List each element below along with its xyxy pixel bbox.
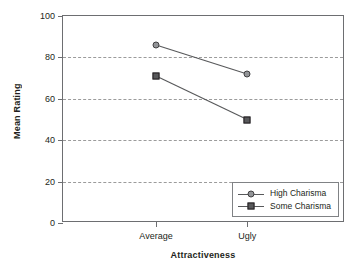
legend: High CharismaSome Charisma: [232, 182, 339, 217]
x-tick-label: Average: [139, 231, 172, 241]
y-tick-label: 20: [45, 177, 55, 187]
y-tick-label: 60: [45, 94, 55, 104]
legend-key: [238, 188, 264, 199]
data-point-square: [244, 116, 251, 123]
legend-key: [238, 200, 264, 211]
data-point-circle: [153, 41, 160, 48]
y-tick-label: 100: [40, 11, 55, 21]
line-chart-figure: Mean Rating 020406080100 AverageUgly Hig…: [0, 0, 364, 271]
data-point-circle: [244, 70, 251, 77]
legend-item-high-charisma[interactable]: High Charisma: [238, 187, 331, 199]
legend-label: Some Charisma: [270, 200, 331, 212]
legend-item-some-charisma[interactable]: Some Charisma: [238, 200, 331, 212]
y-tick-mark: [58, 223, 63, 224]
legend-marker-circle: [248, 190, 255, 197]
series-line: [156, 76, 247, 119]
y-axis-title: Mean Rating: [8, 0, 26, 222]
data-point-square: [153, 73, 160, 80]
plot-area: 020406080100 AverageUgly High CharismaSo…: [62, 15, 344, 222]
legend-label: High Charisma: [270, 187, 326, 199]
y-tick-label: 0: [50, 218, 55, 228]
x-tick-label: Ugly: [238, 231, 256, 241]
x-axis-title: Attractiveness: [62, 250, 344, 260]
series-line: [156, 45, 247, 74]
y-tick-label: 40: [45, 135, 55, 145]
legend-marker-square: [248, 202, 255, 209]
y-tick-label: 80: [45, 52, 55, 62]
